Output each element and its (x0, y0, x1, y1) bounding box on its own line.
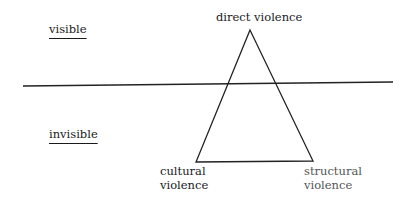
invisible-zone-label: invisible (49, 127, 98, 141)
visibility-divider-line (23, 82, 393, 86)
cultural-violence-label-line1: cultural (160, 164, 206, 178)
structural-violence-label-line2: violence (304, 178, 352, 192)
triangle-shape (196, 30, 313, 162)
direct-violence-label: direct violence (216, 10, 302, 24)
structural-violence-label-line1: structural (304, 164, 362, 178)
visible-zone-label: visible (49, 22, 87, 36)
cultural-violence-label-line2: violence (160, 178, 208, 192)
